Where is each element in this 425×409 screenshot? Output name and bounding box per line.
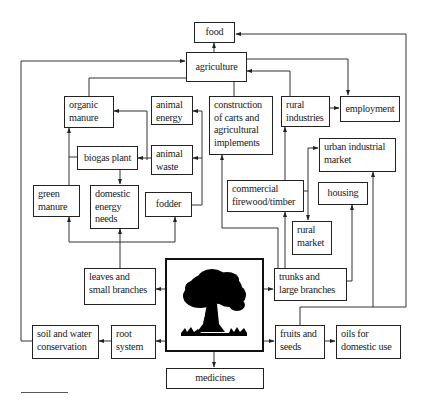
node-trunks-large-branches: trunks and large branches bbox=[274, 268, 347, 301]
node-construction: construction of carts and agricultural i… bbox=[209, 96, 273, 155]
node-housing: housing bbox=[318, 182, 368, 205]
node-leaves-small-branches: leaves and small branches bbox=[84, 268, 156, 305]
node-green-manure: green manure bbox=[33, 185, 80, 217]
node-rural-industries: rural industries bbox=[281, 96, 330, 127]
node-urban-industrial-market: urban industrial market bbox=[319, 138, 396, 172]
node-oils-domestic-use: oils for domestic use bbox=[336, 325, 401, 359]
tree-icon bbox=[167, 260, 262, 350]
node-domestic-energy-needs: domestic energy needs bbox=[90, 185, 139, 229]
node-soil-water-conservation: soil and water conservation bbox=[32, 325, 99, 359]
node-organic-manure: organic manure bbox=[64, 96, 114, 128]
node-fodder: fodder bbox=[145, 192, 192, 217]
node-commercial-firewood: commercial firewood/timber bbox=[227, 180, 304, 212]
node-animal-waste: animal waste bbox=[151, 145, 193, 175]
node-biogas-plant: biogas plant bbox=[77, 146, 138, 170]
footnote-rule bbox=[21, 392, 68, 393]
node-medicines: medicines bbox=[166, 368, 264, 389]
node-employment: employment bbox=[340, 96, 400, 122]
node-rural-market: rural market bbox=[292, 221, 332, 255]
node-agriculture: agriculture bbox=[186, 52, 247, 82]
node-animal-energy: animal energy bbox=[151, 96, 193, 125]
node-root-system: root system bbox=[111, 325, 156, 359]
node-fruits-seeds: fruits and seeds bbox=[275, 325, 325, 359]
node-tree bbox=[165, 258, 264, 352]
node-food: food bbox=[194, 22, 235, 43]
